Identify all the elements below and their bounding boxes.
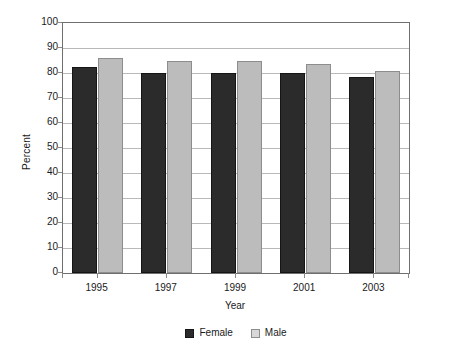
- x-tick-mark: [304, 273, 305, 278]
- x-tick-label: 2001: [274, 282, 334, 294]
- x-tick-label: 2003: [343, 282, 403, 294]
- x-tick-mark: [408, 273, 409, 278]
- legend-item-female[interactable]: Female: [185, 327, 232, 339]
- chart-legend: FemaleMale: [0, 327, 472, 339]
- legend-swatch-male-icon: [251, 329, 260, 338]
- legend-item-male[interactable]: Male: [251, 327, 287, 339]
- x-tick-label: 1995: [67, 282, 127, 294]
- x-tick-mark: [62, 273, 63, 278]
- x-axis-title: Year: [62, 300, 408, 312]
- legend-label: Male: [265, 327, 287, 339]
- x-tick-label: 1999: [205, 282, 265, 294]
- x-tick-mark: [166, 273, 167, 278]
- x-tick-mark: [97, 273, 98, 278]
- x-tick-mark: [235, 273, 236, 278]
- legend-label: Female: [199, 327, 232, 339]
- x-tick-label: 1997: [136, 282, 196, 294]
- bar-chart-figure: Percent 0102030405060708090100 199519971…: [0, 0, 472, 356]
- legend-swatch-female-icon: [185, 329, 194, 338]
- x-tick-mark: [373, 273, 374, 278]
